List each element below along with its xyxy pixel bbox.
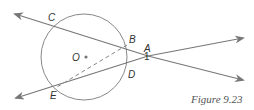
secant-line-eda-ext: [148, 38, 243, 56]
label-o: O: [72, 52, 80, 63]
label-e: E: [50, 90, 57, 101]
label-b: B: [129, 34, 136, 45]
label-d: D: [128, 69, 135, 80]
figure-diagram: C B A D E O 1 Figure 9.23: [0, 0, 254, 110]
label-c: C: [48, 12, 56, 23]
angle-label-1: 1: [144, 51, 150, 62]
figure-caption: Figure 9.23: [190, 93, 243, 105]
secant-line-cba-ext: [148, 56, 243, 80]
center-dot-icon: [84, 55, 87, 58]
